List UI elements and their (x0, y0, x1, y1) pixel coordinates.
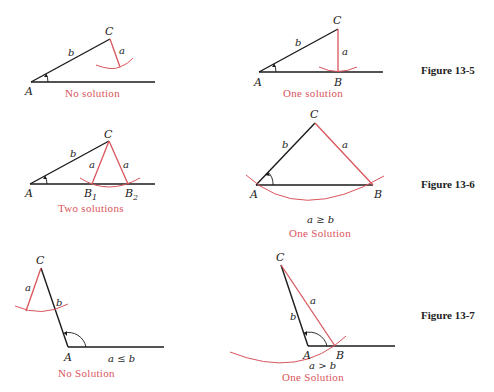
side-label-b: b (68, 47, 74, 58)
point-label-B: B (335, 349, 344, 362)
caption-one-solution: One solution (283, 87, 343, 99)
figure-label-13-5: Figure 13-5 (421, 64, 475, 76)
side-b (41, 268, 68, 347)
point-label-C: C (36, 254, 45, 267)
figure-label-13-6: Figure 13-6 (421, 178, 475, 190)
condition-label: a > b (309, 360, 336, 371)
fig13-6-left-two-solutions: C A B1 B2 b a a Two solutions (24, 128, 155, 214)
point-label-C: C (105, 25, 114, 38)
side-label-b: b (290, 311, 296, 322)
side-label-a: a (342, 46, 348, 57)
diagram-canvas: C A b a No solution C A B b a One soluti… (0, 0, 494, 392)
point-label-A: A (249, 188, 258, 201)
side-b (259, 29, 338, 72)
side-b (31, 39, 110, 82)
figure-label-13-7: Figure 13-7 (421, 309, 475, 321)
side-b (256, 123, 315, 185)
point-label-B1: B1 (83, 187, 97, 202)
side-label-b: b (56, 297, 62, 308)
caption-no-solution: No solution (65, 87, 120, 99)
point-label-A: A (24, 85, 33, 98)
arc-radius-a (246, 175, 384, 200)
arc-radius-a (96, 58, 133, 69)
caption-one-solution: One Solution (282, 371, 344, 383)
fig13-7-right-one-solution: C A B b a a > b One Solution (230, 251, 395, 383)
side-label-a: a (25, 282, 31, 293)
fig13-5-left-no-solution: C A b a No solution (24, 25, 155, 99)
point-label-B: B (373, 188, 382, 201)
point-label-B2: B2 (124, 187, 138, 202)
point-label-C: C (104, 128, 113, 141)
fig13-6-right-one-solution: C A B b a a ≥ b One Solution (246, 108, 384, 239)
side-label-b: b (295, 37, 301, 48)
condition-label: a ≤ b (108, 353, 135, 364)
arc-radius-a (80, 178, 140, 187)
point-label-A: A (24, 187, 33, 200)
condition-label: a ≥ b (307, 214, 334, 225)
side-label-a: a (342, 139, 348, 150)
point-label-A: A (63, 351, 72, 364)
point-label-A: A (253, 76, 262, 89)
side-label-b: b (70, 148, 76, 159)
side-label-a: a (310, 295, 316, 306)
point-label-C: C (276, 251, 285, 264)
side-label-a-1: a (89, 159, 95, 170)
point-label-C: C (310, 108, 319, 121)
side-a (315, 123, 373, 185)
side-label-a-2: a (123, 159, 129, 170)
side-b (281, 265, 308, 346)
arc-radius-a (230, 336, 346, 363)
caption-one-solution: One Solution (289, 227, 351, 239)
side-label-a: a (119, 45, 125, 56)
fig13-5-right-one-solution: C A B b a One solution (253, 14, 383, 99)
point-label-C: C (333, 14, 342, 27)
caption-two-solutions: Two solutions (58, 202, 124, 214)
fig13-7-left-no-solution: C A a b a ≤ b No Solution (15, 254, 164, 379)
caption-no-solution: No Solution (58, 367, 115, 379)
side-label-b: b (282, 139, 288, 150)
side-a (281, 265, 335, 346)
